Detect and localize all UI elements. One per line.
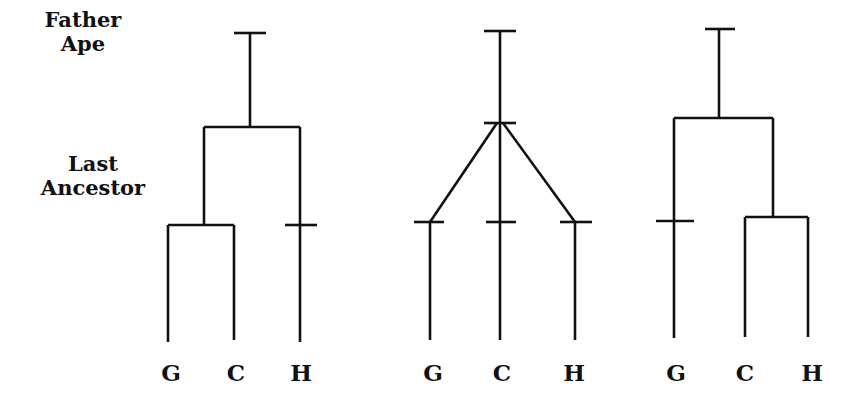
tree-2 <box>414 31 592 340</box>
tree-3-leaf-g: G <box>661 360 691 386</box>
tree-3 <box>656 29 808 338</box>
tree-2-leaf-g: G <box>418 360 448 386</box>
tree-2-leaf-h: H <box>559 360 589 386</box>
tree-1-leaf-h: H <box>286 360 316 386</box>
phylogeny-diagram <box>0 0 854 404</box>
tree-3-leaf-h: H <box>797 360 827 386</box>
tree-1 <box>168 33 317 342</box>
tree-1-leaf-g: G <box>156 360 186 386</box>
tree-2-leaf-c: C <box>487 360 517 386</box>
tree-2-h-diagonal <box>503 123 575 222</box>
tree-3-leaf-c: C <box>730 360 760 386</box>
tree-2-g-diagonal <box>430 123 497 222</box>
tree-1-leaf-c: C <box>221 360 251 386</box>
